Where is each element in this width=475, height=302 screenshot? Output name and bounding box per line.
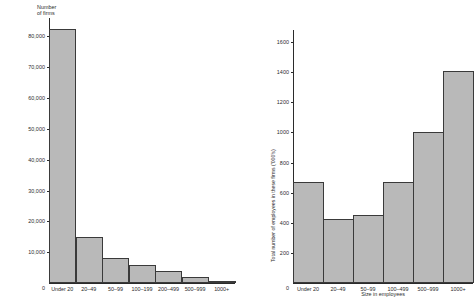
bar bbox=[443, 71, 474, 283]
y-tick-label: 10,000 bbox=[19, 249, 45, 255]
bar bbox=[293, 182, 324, 283]
right-x-axis-line bbox=[293, 283, 473, 284]
bar bbox=[155, 271, 182, 283]
y-tick-label: 50,000 bbox=[19, 126, 45, 132]
right-y-axis-title: Total number of employees in these firms… bbox=[270, 149, 276, 262]
bar bbox=[49, 29, 76, 283]
bar bbox=[76, 237, 103, 283]
bar bbox=[129, 265, 156, 283]
y-tick-label: 200 bbox=[272, 250, 289, 256]
y-tick-label: 70,000 bbox=[19, 64, 45, 70]
y-tick-label: 400 bbox=[272, 220, 289, 226]
y-tick-label: 1200 bbox=[272, 99, 289, 105]
right-x-axis-title: Size in employees bbox=[333, 291, 433, 297]
figure-two-bar-charts: Number of firms 010,00020,00030,00040,00… bbox=[0, 0, 475, 302]
bar bbox=[323, 219, 354, 283]
y-tick-label: 30,000 bbox=[19, 188, 45, 194]
left-x-axis-line bbox=[49, 283, 235, 284]
chart-number-of-firms: Number of firms 010,00020,00030,00040,00… bbox=[0, 0, 240, 302]
y-tick-label: 0 bbox=[42, 285, 45, 291]
y-tick bbox=[291, 72, 294, 73]
chart-total-employees: Total number of employees in these firms… bbox=[240, 0, 475, 302]
bar bbox=[102, 258, 129, 283]
x-category-label: 1000+ bbox=[440, 286, 475, 292]
bar bbox=[383, 182, 414, 283]
y-tick bbox=[291, 42, 294, 43]
y-tick-label: 800 bbox=[272, 160, 289, 166]
y-tick-label: 60,000 bbox=[19, 95, 45, 101]
y-tick bbox=[291, 102, 294, 103]
y-tick bbox=[291, 163, 294, 164]
bar bbox=[208, 281, 235, 283]
y-tick-label: 80,000 bbox=[19, 33, 45, 39]
y-tick-label: 40,000 bbox=[19, 157, 45, 163]
y-tick-label: 1400 bbox=[272, 69, 289, 75]
bar bbox=[353, 215, 384, 283]
y-tick-label: 20,000 bbox=[19, 218, 45, 224]
y-tick-label: 1000 bbox=[272, 129, 289, 135]
bar bbox=[413, 132, 444, 283]
y-tick-label: 1600 bbox=[272, 39, 289, 45]
bar bbox=[182, 277, 209, 283]
y-tick bbox=[291, 132, 294, 133]
left-y-axis-title: Number of firms bbox=[37, 4, 56, 17]
y-tick-label: 0 bbox=[286, 285, 289, 291]
x-category-label: 1000+ bbox=[205, 286, 238, 292]
y-tick-label: 600 bbox=[272, 190, 289, 196]
